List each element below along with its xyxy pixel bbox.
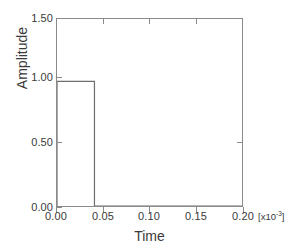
series-pulse-line	[57, 81, 242, 206]
x-tick-top-005	[103, 18, 104, 24]
y-axis-title: Amplitude	[14, 0, 30, 138]
plot-area	[56, 18, 243, 207]
series-pulse	[57, 19, 242, 206]
x-tick-label-015: 0.15	[174, 211, 218, 222]
x-scale-prefix: [x10	[258, 211, 276, 222]
x-tick-top-010	[149, 18, 150, 24]
y-tick-050	[56, 142, 62, 143]
x-tick-label-010: 0.10	[127, 211, 171, 222]
chart-figure: 1.50 1.00 0.50 0.00 0.00 0.05 0.10 0.15 …	[0, 0, 294, 250]
y-tick-100	[56, 77, 62, 78]
x-tick-top-015	[196, 18, 197, 24]
x-scale-suffix: ]	[282, 211, 285, 222]
y-tick-150	[56, 18, 62, 19]
x-tick-label-005: 0.05	[81, 211, 125, 222]
x-axis-title: Time	[56, 228, 243, 244]
x-tick-label-000: 0.00	[34, 211, 78, 222]
y-tick-label-050: 0.50	[13, 137, 53, 148]
y-tick-right-150	[237, 18, 243, 19]
data-layer	[57, 19, 242, 206]
x-axis-scale-note: [x10-3]	[258, 211, 284, 222]
y-tick-right-050	[237, 142, 243, 143]
